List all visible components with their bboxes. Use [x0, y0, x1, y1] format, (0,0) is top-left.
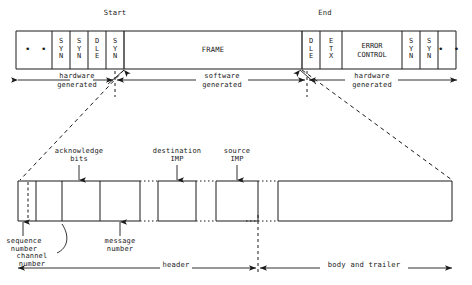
span-software-line2: generated — [199, 82, 245, 89]
span-hardware-left-line1: hardware — [54, 73, 100, 80]
end-label: End — [305, 9, 345, 17]
figure-root: Start End • • S Y N S Y N D L E S Y N FR… — [0, 0, 472, 285]
frame-cell-etx: E T X — [320, 38, 342, 61]
frame-cell-syn-3: S Y N — [106, 38, 124, 61]
span-hardware-right-line1: hardware — [349, 73, 395, 80]
frame-cell-syn-1: S Y N — [52, 38, 70, 61]
channel-number-leader — [57, 224, 67, 253]
frame-cell-left-ellipsis: • • — [22, 44, 52, 54]
packet-callout-arrows — [79, 165, 237, 180]
span-header-label: header — [155, 261, 197, 269]
frame-cell-syn-2: S Y N — [70, 38, 88, 61]
label-channel-number-line2: number — [6, 261, 58, 268]
span-software-line1: software — [199, 73, 245, 80]
span-body-trailer-label: body and trailer — [322, 261, 406, 269]
start-label: Start — [85, 9, 145, 17]
frame-cell-dle-2: D L E — [302, 38, 320, 61]
frame-cell-right-ellipsis: • • — [438, 44, 458, 54]
callout-acknowledge-bits-line2: bits — [46, 156, 112, 163]
frame-cell-syn-4: S Y N — [402, 38, 420, 61]
header-body-split — [246, 215, 258, 272]
packet-rect-outline — [18, 181, 452, 221]
packet-field-dividers — [28, 181, 278, 221]
callout-source-imp-line2: IMP — [207, 156, 267, 163]
frame-cell-error-control: ERROR CONTROL — [342, 42, 402, 60]
frame-cell-syn-5: S Y N — [420, 38, 438, 61]
label-message-number-line2: number — [94, 246, 146, 253]
frame-cell-dle-1: D L E — [88, 38, 106, 61]
callout-destination-imp-line2: IMP — [144, 156, 210, 163]
span-hardware-left-line2: generated — [54, 82, 100, 89]
frame-cell-frame: FRAME — [124, 46, 302, 54]
packet-lower-arrows — [23, 222, 120, 236]
span-hardware-right-line2: generated — [349, 82, 395, 89]
